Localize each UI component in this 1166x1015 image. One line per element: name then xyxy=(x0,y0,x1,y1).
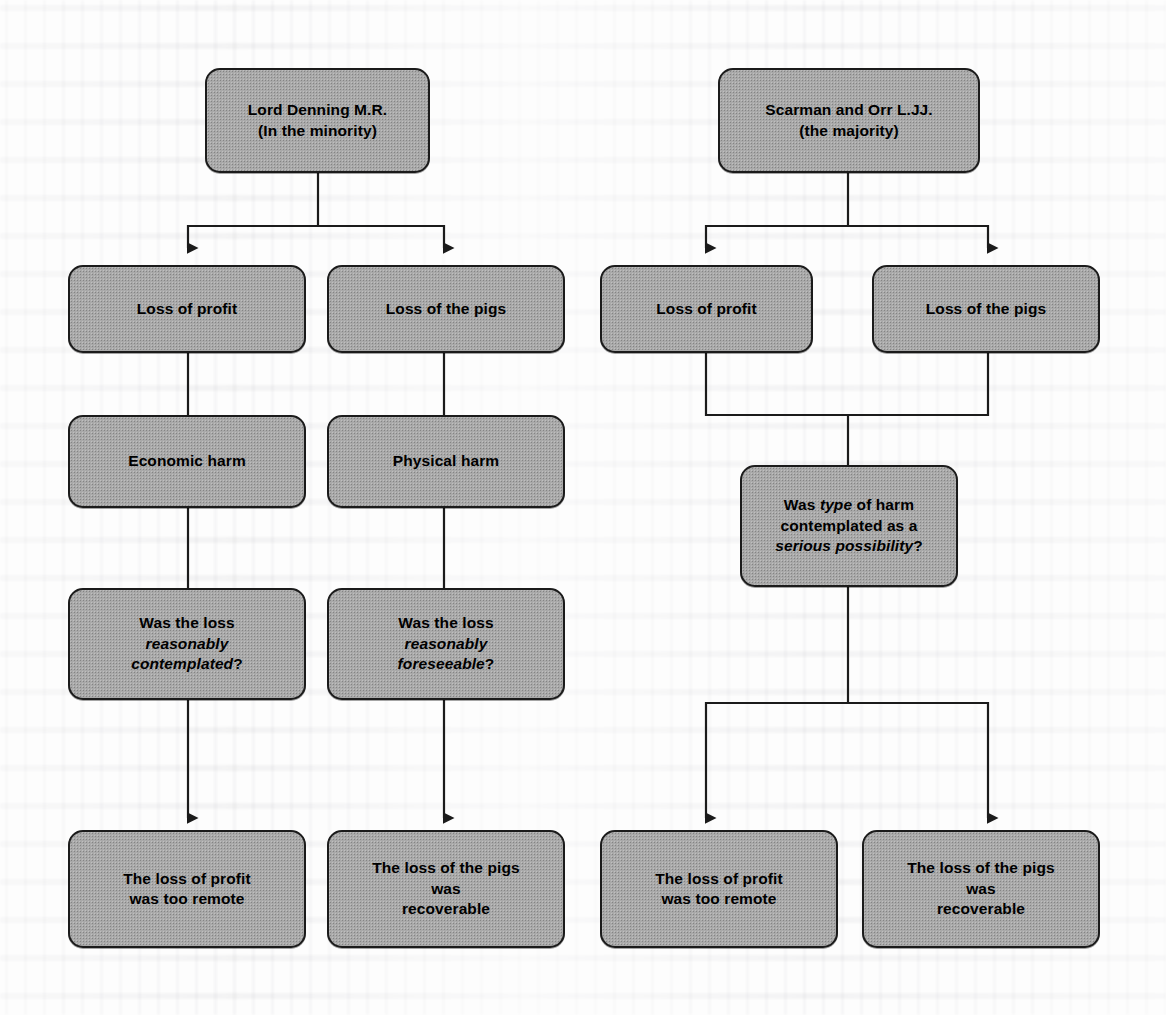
wire-question-to-outcome-pigs xyxy=(848,703,988,818)
node-scarman-and-orr-text: Scarman and Orr L.JJ.(the majority) xyxy=(765,100,933,141)
node-outcome-scarman-pigs-recoverable-text: The loss of the pigswasrecoverable xyxy=(907,858,1055,919)
node-outcome-denning-pigs-recoverable-text: The loss of the pigswasrecoverable xyxy=(372,858,520,919)
wire-merge-pigs-into-question xyxy=(848,352,988,415)
wire-denning-to-loss-of-profit xyxy=(188,172,318,238)
wire-scarman-to-loss-of-pigs xyxy=(848,226,988,238)
flowchart-canvas: Lord Denning M.R.(In the minority) Scarm… xyxy=(0,0,1166,1015)
node-was-the-loss-reasonably-foreseeable-text: Was the loss reasonably foreseeable? xyxy=(398,613,495,674)
wire-scarman-to-loss-of-profit xyxy=(706,172,848,238)
node-outcome-denning-profit-too-remote-text: The loss of profitwas too remote xyxy=(123,869,251,910)
node-scarman-loss-of-profit-text: Loss of profit xyxy=(656,299,756,319)
node-scarman-loss-of-profit[interactable]: Loss of profit xyxy=(600,265,813,353)
node-was-the-loss-reasonably-contemplated[interactable]: Was the loss reasonably contemplated? xyxy=(68,588,306,700)
node-denning-loss-of-profit-text: Loss of profit xyxy=(137,299,237,319)
node-scarman-loss-of-the-pigs[interactable]: Loss of the pigs xyxy=(872,265,1100,353)
node-scarman-loss-of-the-pigs-text: Loss of the pigs xyxy=(926,299,1046,319)
node-physical-harm-text: Physical harm xyxy=(393,451,499,471)
node-was-type-of-harm-contemplated-text: Was type of harm contemplated as a serio… xyxy=(775,495,923,556)
node-lord-denning-text: Lord Denning M.R.(In the minority) xyxy=(248,100,387,141)
node-was-the-loss-reasonably-foreseeable[interactable]: Was the loss reasonably foreseeable? xyxy=(327,588,565,700)
node-denning-loss-of-the-pigs-text: Loss of the pigs xyxy=(386,299,506,319)
node-lord-denning[interactable]: Lord Denning M.R.(In the minority) xyxy=(205,68,430,173)
node-denning-loss-of-profit[interactable]: Loss of profit xyxy=(68,265,306,353)
node-was-type-of-harm-contemplated[interactable]: Was type of harm contemplated as a serio… xyxy=(740,465,958,587)
node-physical-harm[interactable]: Physical harm xyxy=(327,415,565,508)
node-outcome-scarman-profit-too-remote[interactable]: The loss of profitwas too remote xyxy=(600,830,838,948)
wire-merge-profit-into-question xyxy=(706,352,848,466)
node-economic-harm[interactable]: Economic harm xyxy=(68,415,306,508)
wire-question-to-outcome-profit xyxy=(706,587,848,818)
node-was-the-loss-reasonably-contemplated-text: Was the loss reasonably contemplated? xyxy=(131,613,243,674)
node-scarman-and-orr[interactable]: Scarman and Orr L.JJ.(the majority) xyxy=(718,68,980,173)
node-economic-harm-text: Economic harm xyxy=(128,451,246,471)
wire-denning-to-loss-of-pigs xyxy=(318,226,444,238)
node-outcome-scarman-profit-too-remote-text: The loss of profitwas too remote xyxy=(655,869,783,910)
node-outcome-denning-profit-too-remote[interactable]: The loss of profitwas too remote xyxy=(68,830,306,948)
node-denning-loss-of-the-pigs[interactable]: Loss of the pigs xyxy=(327,265,565,353)
node-outcome-denning-pigs-recoverable[interactable]: The loss of the pigswasrecoverable xyxy=(327,830,565,948)
node-outcome-scarman-pigs-recoverable[interactable]: The loss of the pigswasrecoverable xyxy=(862,830,1100,948)
